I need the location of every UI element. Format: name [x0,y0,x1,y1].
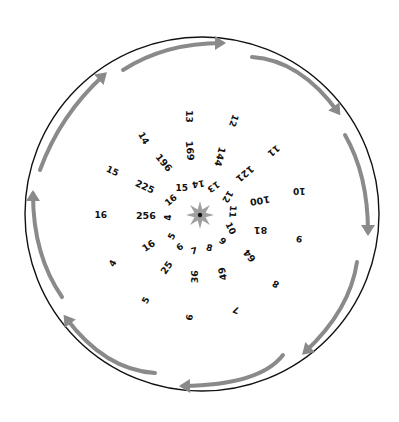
inner-ring-number: 14 [191,177,205,188]
arrow-right-shaft [345,135,368,232]
middle-ring-number: 49 [216,266,228,281]
center-dot [198,213,202,217]
outer-ring-number: 10 [293,186,306,195]
inner-ring-number: 11 [227,204,237,217]
diagram-canvas [0,0,399,422]
middle-ring-number: 100 [249,194,270,207]
middle-ring-number: 36 [189,270,199,283]
inner-ring-number: 4 [164,214,173,220]
outer-ring-number: 16 [95,211,108,220]
arrow-upper-left-shaft [40,75,104,170]
arrow-left-shaft [33,194,62,297]
arrow-right-arrowhead-icon [361,225,375,236]
outer-ring-number: 6 [185,313,195,321]
middle-ring-number: 169 [184,140,195,161]
center-star-icon [186,201,214,229]
arrow-lower-right-shaft [305,262,357,352]
inner-ring-number: 15 [176,184,189,193]
arrow-upper-right-shaft [252,57,338,112]
middle-ring-number: 256 [136,211,156,221]
arrow-top-shaft [123,43,222,70]
middle-ring-number: 81 [254,225,267,235]
arrow-left-arrowhead-icon [26,190,40,201]
outer-ring-number: 13 [183,110,192,123]
arrow-bottom-shaft [183,355,283,386]
